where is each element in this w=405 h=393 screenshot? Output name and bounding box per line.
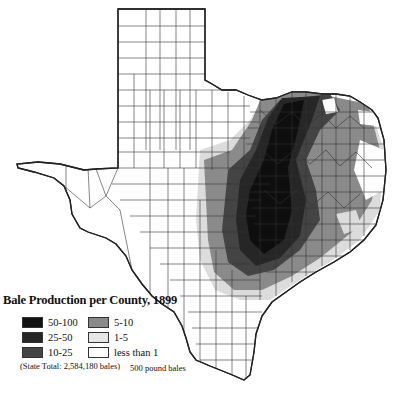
legend-swatch bbox=[22, 317, 43, 328]
legend-swatch bbox=[22, 347, 43, 358]
state-total-note: (State Total: 2,584,180 bales) bbox=[20, 361, 120, 371]
legend-swatch bbox=[22, 332, 43, 343]
legend-swatch bbox=[88, 347, 109, 358]
legend-item-25-50: 25-50 bbox=[22, 331, 73, 344]
legend-swatch bbox=[88, 332, 109, 343]
legend-item-50-100: 50-100 bbox=[22, 316, 78, 329]
unit-note: 500 pound bales bbox=[130, 363, 186, 373]
legend-swatch bbox=[88, 317, 109, 328]
map-title: Bale Production per County, 1899 bbox=[3, 293, 177, 308]
legend-item-less-than-1: less than 1 bbox=[88, 346, 158, 359]
legend-item-5-10: 5-10 bbox=[88, 316, 133, 329]
legend-item-1-5: 1-5 bbox=[88, 331, 128, 344]
legend-item-10-25: 10-25 bbox=[22, 346, 73, 359]
